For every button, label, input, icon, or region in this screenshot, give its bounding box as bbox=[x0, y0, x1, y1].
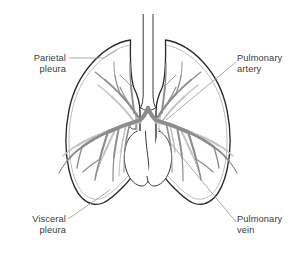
label-visceral-pleura: Visceral pleura bbox=[6, 214, 66, 237]
label-pulmonary-artery: Pulmonary artery bbox=[237, 53, 301, 76]
label-pulmonary-vein: Pulmonary vein bbox=[237, 214, 301, 237]
figure-canvas: Parietal pleura Visceral pleura Pulmonar… bbox=[0, 0, 305, 262]
label-parietal-pleura: Parietal pleura bbox=[6, 53, 66, 76]
trachea bbox=[141, 14, 156, 110]
